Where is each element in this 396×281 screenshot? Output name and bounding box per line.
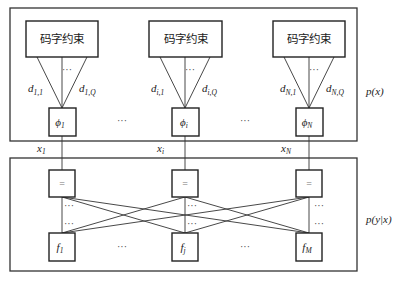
edge-label-right: dN,Q <box>326 82 344 97</box>
variable-label-x1: x1 <box>36 142 46 156</box>
edge-label-right: d1,Q <box>79 82 96 97</box>
vertical-ellipsis: ··· <box>314 200 324 211</box>
edge-ellipsis: ··· <box>185 64 195 75</box>
factor-graph-diagram: 码字约束 ··· d1,1 d1,Q 码字约束 ··· di,1 di,Q 码字… <box>0 0 396 281</box>
equality-symbol: = <box>59 178 65 189</box>
edge-label-left: d1,1 <box>28 82 43 97</box>
prior-block-label: p(x) <box>365 85 384 98</box>
factor-ellipsis: ··· <box>117 241 127 252</box>
codeword-constraint-label: 码字约束 <box>164 32 209 46</box>
likelihood-block-label: p(y|x) <box>365 213 392 226</box>
edge-label-left: di,1 <box>151 82 164 97</box>
vertical-ellipsis: ··· <box>64 200 74 211</box>
phi-ellipsis: ··· <box>117 115 127 126</box>
edge-ellipsis: ··· <box>309 64 319 75</box>
edge-ellipsis: ··· <box>62 64 72 75</box>
vertical-ellipsis: ··· <box>187 200 197 211</box>
codeword-constraint-label: 码字约束 <box>287 32 332 46</box>
codeword-constraint-group-i: 码字约束 ··· di,1 di,Q <box>149 21 222 108</box>
factor-ellipsis: ··· <box>240 241 250 252</box>
equality-symbol: = <box>182 178 188 189</box>
codeword-constraint-label: 码字约束 <box>40 32 85 46</box>
vertical-ellipsis: ··· <box>187 218 197 229</box>
edge-label-left: dN,1 <box>280 82 296 97</box>
codeword-constraint-group-1: 码字约束 ··· d1,1 d1,Q <box>26 21 98 108</box>
phi-ellipsis: ··· <box>240 115 250 126</box>
equality-symbol: = <box>306 178 312 189</box>
vertical-ellipsis: ··· <box>64 218 74 229</box>
edge-label-right: di,Q <box>202 82 217 97</box>
crossing-edges <box>62 197 309 233</box>
vertical-ellipsis: ··· <box>314 218 324 229</box>
variable-label-xn: xN <box>280 142 292 156</box>
codeword-constraint-group-n: 码字约束 ··· dN,1 dN,Q <box>273 21 345 108</box>
variable-label-xi: xi <box>156 142 164 156</box>
